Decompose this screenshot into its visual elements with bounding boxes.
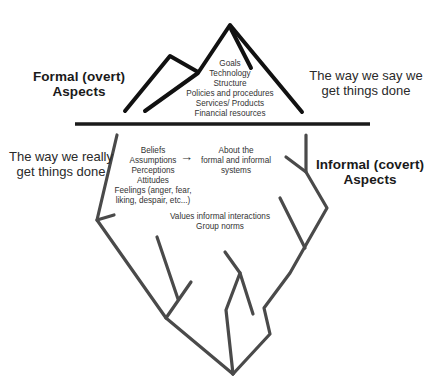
formal-heading-line1: Formal (overt) (24, 69, 134, 84)
formal-aspects-heading: Formal (overt) Aspects (24, 69, 134, 99)
formal-item: Services/ Products (170, 99, 290, 109)
informal-item: Feelings (anger, fear, (110, 186, 196, 196)
informal-item: liking, despair, etc...) (110, 196, 196, 206)
informal-heading-line1: Informal (covert) (312, 157, 428, 172)
values-line: Values informal interactions (150, 212, 290, 222)
really-caption-line2: get things done (8, 164, 114, 179)
arrow-target-line1: About the (196, 146, 276, 156)
values-norms-text: Values informal interactions Group norms (150, 212, 290, 232)
arrow-target-line2: formal and informal (196, 156, 276, 166)
informal-item: Attitudes (110, 176, 196, 186)
formal-item: Technology (170, 69, 290, 79)
informal-aspects-heading: Informal (covert) Aspects (312, 157, 428, 187)
really-caption: The way we really get things done (8, 149, 114, 179)
iceberg-diagram: Formal (overt) Aspects The way we say we… (0, 0, 432, 390)
formal-item: Policies and procedures (170, 89, 290, 99)
formal-items-list: Goals Technology Structure Policies and … (170, 59, 290, 119)
formal-item: Goals (170, 59, 290, 69)
say-caption: The way we say we get things done (300, 68, 432, 98)
really-caption-line1: The way we really (8, 149, 114, 164)
group-norms-line: Group norms (150, 222, 290, 232)
say-caption-line2: get things done (300, 83, 432, 98)
informal-item: Perceptions (110, 166, 196, 176)
formal-item: Financial resources (170, 109, 290, 119)
formal-item: Structure (170, 79, 290, 89)
arrow-target-text: About the formal and informal systems (196, 146, 276, 176)
informal-heading-line2: Aspects (312, 172, 428, 187)
formal-heading-line2: Aspects (24, 84, 134, 99)
say-caption-line1: The way we say we (300, 68, 432, 83)
arrow-target-line3: systems (196, 166, 276, 176)
right-arrow-icon: → (180, 149, 193, 164)
